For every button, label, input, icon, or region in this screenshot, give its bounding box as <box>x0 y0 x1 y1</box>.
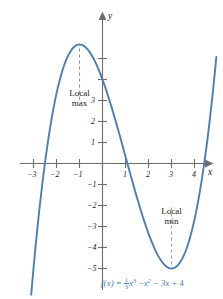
local-max-label-line1: Local <box>55 88 104 98</box>
equation-term1-exponent: 3 <box>133 278 136 284</box>
equation-lhs: f(x) <box>101 278 114 288</box>
y-tick-label--3: −3 <box>87 222 96 231</box>
x-tick-label-1: 1 <box>123 170 127 179</box>
equation-operator-2: − <box>153 278 158 288</box>
x-tick-label-4: 4 <box>192 170 196 179</box>
x-tick-label--1: −1 <box>73 170 82 179</box>
equation-fraction-one-third: 1 3 <box>124 277 128 291</box>
local-min-label-line2: min <box>147 216 196 226</box>
y-tick-label-2: 2 <box>91 117 95 126</box>
y-tick-label--5: −5 <box>87 264 96 273</box>
equation-term3: 3x <box>161 278 170 288</box>
x-tick-label--2: −2 <box>50 170 59 179</box>
equation-term4: 4 <box>179 278 184 288</box>
y-tick-label-1: 1 <box>91 138 95 147</box>
x-tick-label-3: 3 <box>169 170 173 179</box>
y-axis-arrowhead <box>99 12 107 21</box>
fraction-denominator: 3 <box>124 283 128 290</box>
y-tick-label--4: −4 <box>87 243 96 252</box>
function-equation-label: f(x) = 1 3 x3 −x2 − 3x + 4 <box>101 277 184 291</box>
y-axis-label: y <box>108 11 112 21</box>
equation-term2-exponent: 2 <box>148 278 151 284</box>
local-min-label-line1: Local <box>147 206 196 216</box>
x-axis-label: x <box>208 167 212 177</box>
local-max-annotation: Local max <box>55 88 104 108</box>
local-min-annotation: Local min <box>147 206 196 226</box>
figure-container: y x −3 −2 −1 1 2 3 4 1 2 3 −1 −2 −3 −4 −… <box>0 0 223 299</box>
x-tick-label--3: −3 <box>27 170 36 179</box>
cubic-function-plot <box>0 0 223 299</box>
x-tick-label-2: 2 <box>146 170 150 179</box>
equation-equals: = <box>116 278 121 288</box>
local-max-label-line2: max <box>55 98 104 108</box>
y-tick-label--1: −1 <box>87 180 96 189</box>
equation-operator-3: + <box>172 278 177 288</box>
y-tick-label--2: −2 <box>87 201 96 210</box>
